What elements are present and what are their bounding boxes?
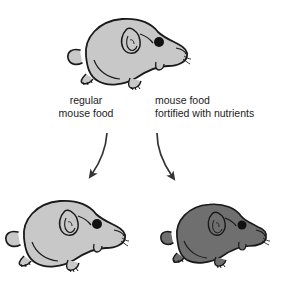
offspring-regular-group	[6, 201, 129, 272]
offspring-fortified-front-foot	[215, 257, 226, 266]
offspring-fortified-group	[161, 204, 270, 268]
offspring-mouse-regular-illustration	[2, 188, 130, 278]
offspring-regular-tail	[6, 231, 20, 246]
label-fortified-mouse-food: mouse food fortified with nutrients	[155, 94, 254, 119]
label-fortified-line-2: fortified with nutrients	[155, 107, 254, 120]
label-fortified-line-1: mouse food	[155, 94, 254, 107]
offspring-regular-eye	[92, 219, 102, 229]
offspring-fortified-eye	[238, 221, 247, 230]
label-regular-mouse-food: regular mouse food	[38, 94, 134, 119]
label-regular-line-2: mouse food	[38, 107, 134, 120]
parent-mouse-front-foot	[129, 78, 141, 88]
offspring-fortified-ear	[208, 212, 225, 235]
offspring-mouse-fortified-illustration	[157, 193, 271, 273]
parent-mouse-group	[68, 19, 191, 90]
parent-mouse-illustration	[64, 8, 192, 96]
mouse-diet-diagram: regular mouse food mouse food fortified …	[0, 0, 291, 291]
offspring-fortified-tail	[161, 231, 173, 244]
label-regular-line-1: regular	[38, 94, 134, 107]
arrow-fortified	[157, 133, 172, 176]
offspring-regular-front-foot	[67, 260, 79, 270]
parent-mouse-eye	[154, 37, 164, 47]
arrow-regular	[92, 133, 107, 174]
parent-mouse-tail	[68, 49, 82, 64]
